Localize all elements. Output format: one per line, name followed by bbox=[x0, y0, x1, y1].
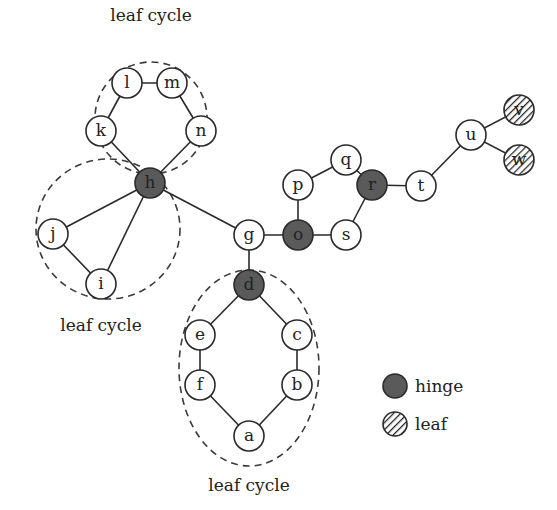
node-label: n bbox=[196, 120, 207, 140]
node-l: l bbox=[112, 68, 142, 98]
node-i: i bbox=[86, 269, 116, 299]
node-label: u bbox=[466, 124, 477, 144]
leaf-cycle-caption: leaf cycle bbox=[60, 315, 141, 335]
node-s: s bbox=[331, 220, 361, 250]
node-k: k bbox=[86, 116, 116, 146]
node-label: l bbox=[124, 72, 129, 92]
legend: hingeleaf bbox=[383, 374, 463, 436]
node-g: g bbox=[234, 220, 264, 250]
leaf-cycle-outlines bbox=[36, 62, 319, 466]
node-o: o bbox=[283, 220, 313, 250]
node-label: i bbox=[98, 273, 104, 293]
node-e: e bbox=[185, 320, 215, 350]
node-label: r bbox=[368, 174, 377, 194]
node-label: q bbox=[341, 149, 352, 169]
node-label: e bbox=[195, 324, 205, 344]
node-u: u bbox=[456, 120, 486, 150]
node-v: v bbox=[504, 95, 534, 125]
node-t: t bbox=[406, 171, 436, 201]
node-label: p bbox=[293, 174, 304, 194]
edge-g-h bbox=[150, 183, 249, 235]
legend-item-hinge: hinge bbox=[383, 374, 463, 398]
leaf-cycle-caption: leaf cycle bbox=[208, 475, 289, 495]
leaf-swatch-icon bbox=[383, 412, 407, 436]
legend-item-leaf: leaf bbox=[383, 412, 449, 436]
hinge-swatch-icon bbox=[383, 374, 407, 398]
node-m: m bbox=[157, 68, 187, 98]
node-label: c bbox=[292, 324, 302, 344]
legend-label: leaf bbox=[415, 414, 449, 434]
node-c: c bbox=[282, 320, 312, 350]
node-label: t bbox=[418, 175, 425, 195]
node-label: a bbox=[244, 425, 254, 445]
node-j: j bbox=[38, 219, 68, 249]
node-d: d bbox=[234, 270, 264, 300]
node-a: a bbox=[234, 421, 264, 451]
node-label: w bbox=[512, 149, 527, 169]
edge-h-i bbox=[101, 183, 150, 284]
node-label: s bbox=[342, 224, 351, 244]
node-label: g bbox=[244, 224, 255, 244]
node-label: k bbox=[96, 120, 107, 140]
node-label: h bbox=[145, 172, 156, 192]
node-h: h bbox=[135, 168, 165, 198]
node-q: q bbox=[331, 145, 361, 175]
node-label: d bbox=[244, 274, 255, 294]
node-n: n bbox=[186, 116, 216, 146]
node-label: v bbox=[513, 99, 524, 119]
node-w: w bbox=[504, 145, 534, 175]
leaf-cycle-caption: leaf cycle bbox=[110, 5, 191, 25]
node-p: p bbox=[283, 170, 313, 200]
node-f: f bbox=[185, 370, 215, 400]
node-b: b bbox=[282, 370, 312, 400]
node-label: o bbox=[293, 224, 303, 244]
node-r: r bbox=[357, 170, 387, 200]
node-label: j bbox=[48, 223, 55, 243]
node-label: b bbox=[292, 374, 303, 394]
edge-h-j bbox=[53, 183, 150, 234]
node-label: m bbox=[164, 72, 180, 92]
graph-canvas: abcdefghijklmnopqrstuvw leaf cycleleaf c… bbox=[0, 0, 557, 510]
legend-label: hinge bbox=[415, 376, 463, 396]
